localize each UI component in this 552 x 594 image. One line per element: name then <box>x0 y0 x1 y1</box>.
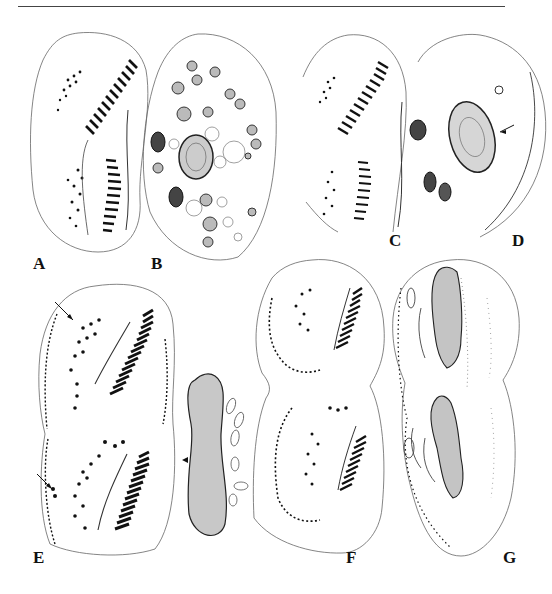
panel-e <box>35 284 250 559</box>
panel-a <box>28 30 148 255</box>
panel-label-b: B <box>151 254 162 274</box>
panel-b-drawing <box>138 32 278 262</box>
panel-c <box>298 32 413 237</box>
panel-b <box>138 32 278 262</box>
panel-label-f: F <box>346 548 356 568</box>
header-rule <box>18 6 505 7</box>
panel-g <box>391 258 523 560</box>
panel-d <box>410 32 550 242</box>
panel-e-drawing <box>35 284 250 559</box>
panel-label-g: G <box>503 548 516 568</box>
panel-f <box>252 258 387 558</box>
panel-g-drawing <box>391 258 523 560</box>
panel-label-d: D <box>512 231 524 251</box>
panel-a-drawing <box>28 30 148 255</box>
panel-label-e: E <box>33 548 44 568</box>
running-header <box>190 0 360 2</box>
panel-d-drawing <box>410 32 550 242</box>
panel-f-drawing <box>252 258 387 558</box>
panel-label-a: A <box>33 254 45 274</box>
panel-c-drawing <box>298 32 413 237</box>
panel-label-c: C <box>389 231 401 251</box>
